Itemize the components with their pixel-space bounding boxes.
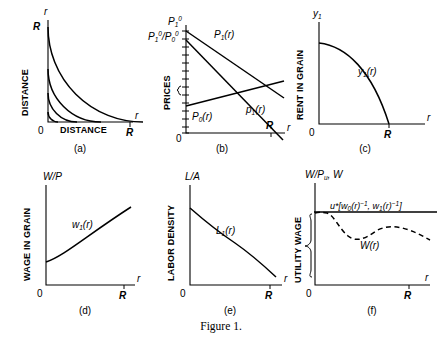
panel-d: W/P 0 R r WAGE IN GRAIN w1(r) (d) bbox=[22, 171, 141, 316]
panel-c-curve-y1 bbox=[319, 43, 389, 124]
panel-b-ylabel: PRICES bbox=[162, 75, 172, 110]
panel-b-curve-label-p1: p1(r) bbox=[245, 104, 265, 116]
panel-f-curve-label-W: W(r) bbox=[360, 240, 379, 251]
panel-b-tag: (b) bbox=[216, 143, 228, 154]
panel-e-ylabel: LABOR DENSITY bbox=[166, 205, 176, 281]
panel-a-tag: (a) bbox=[74, 143, 86, 154]
panel-c-xmax-label: R bbox=[384, 129, 392, 140]
panel-a-arc-4 bbox=[48, 27, 143, 122]
panel-a-ylabel: DISTANCE bbox=[20, 69, 30, 116]
panel-b-ytick-second-label: P10/P00 bbox=[148, 30, 179, 43]
panel-a-xaxis-var: r bbox=[135, 110, 139, 121]
panel-c: y1 0 R r RENT IN GRAIN y1(r) (c) bbox=[295, 8, 431, 154]
panel-a-arc-2 bbox=[48, 93, 77, 122]
panel-b-curve-P0 bbox=[186, 81, 284, 106]
panel-b-curve-label-P0: P0(r) bbox=[192, 111, 212, 123]
panel-e: L/A 0 R r LABOR DENSITY L1(r) (e) bbox=[166, 171, 288, 316]
panel-e-curve-label-L1: L1(r) bbox=[216, 225, 235, 237]
panel-c-tag: (c) bbox=[359, 143, 371, 154]
panel-b-curve-P1 bbox=[186, 31, 284, 98]
panel-f-curve-label-utility: u*[w0(r)−1, w1(r)−1] bbox=[330, 200, 402, 212]
figure-container: r R 0 R r DISTANCE DISTANCE (a) bbox=[0, 0, 442, 342]
panel-a-xlabel: DISTANCE bbox=[60, 125, 107, 135]
panel-e-xmax-label: R bbox=[265, 290, 273, 301]
panel-a-arc-3 bbox=[48, 69, 101, 122]
panel-c-yaxis-var: y1 bbox=[312, 8, 322, 20]
panel-b-origin-label: 0 bbox=[176, 133, 182, 144]
panel-d-yaxis-var: W/P bbox=[43, 171, 62, 182]
panel-f-curve-W bbox=[315, 212, 430, 240]
panel-f-tag: (f) bbox=[367, 305, 376, 316]
panel-e-curve-L1 bbox=[190, 208, 276, 277]
panel-f-yaxis-var: W/Pu, W bbox=[305, 169, 344, 181]
figure-1-svg: r R 0 R r DISTANCE DISTANCE (a) bbox=[0, 0, 442, 342]
panel-f: W/Pu, W 0 R r UTILITY WAGE u*[w0(r)−1, w… bbox=[293, 169, 437, 316]
panel-f-xaxis-var: r bbox=[425, 272, 429, 283]
panel-d-curve-label-w1: w1(r) bbox=[72, 219, 93, 231]
panel-d-curve-w1 bbox=[46, 207, 131, 262]
panel-b-ytick-top-label: P10 bbox=[168, 15, 182, 28]
panel-b: P10 P10/P00 0 R r PRICES P1(r) P0(r) p1(… bbox=[148, 15, 291, 154]
panel-a-origin-label: 0 bbox=[38, 125, 44, 136]
panel-e-xaxis-var: r bbox=[284, 273, 288, 284]
panel-a-ymax-label: R bbox=[33, 21, 41, 32]
panel-f-ylabel: UTILITY WAGE bbox=[293, 217, 303, 283]
panel-a: r R 0 R r DISTANCE DISTANCE (a) bbox=[20, 6, 143, 154]
panel-d-xaxis-var: r bbox=[137, 273, 141, 284]
panel-e-tag: (e) bbox=[224, 305, 236, 316]
panel-b-xmax-label: R bbox=[266, 120, 274, 131]
panel-a-xmax-label: R bbox=[126, 127, 134, 138]
panel-e-yaxis-var: L/A bbox=[185, 171, 200, 182]
panel-a-yaxis-var: r bbox=[44, 6, 48, 17]
panel-d-ylabel: WAGE IN GRAIN bbox=[22, 208, 32, 281]
panel-e-origin-label: 0 bbox=[180, 288, 186, 299]
panel-f-ybrace bbox=[305, 214, 312, 277]
panel-b-ybrace bbox=[177, 86, 181, 95]
panel-c-curve-label-y1: y1(r) bbox=[357, 66, 377, 78]
panel-c-origin-label: 0 bbox=[309, 127, 315, 138]
panel-c-xaxis-var: r bbox=[427, 112, 431, 123]
panel-d-tag: (d) bbox=[79, 305, 91, 316]
panel-f-xmax-label: R bbox=[404, 290, 412, 301]
panel-d-xmax-label: R bbox=[119, 290, 127, 301]
figure-caption: Figure 1. bbox=[200, 320, 242, 333]
panel-d-origin-label: 0 bbox=[37, 288, 43, 299]
panel-f-origin-label: 0 bbox=[306, 288, 312, 299]
panel-b-curve-label-P1: P1(r) bbox=[214, 29, 234, 41]
panel-b-xaxis-var: r bbox=[287, 122, 291, 133]
panel-c-ylabel: RENT IN GRAIN bbox=[295, 50, 305, 120]
